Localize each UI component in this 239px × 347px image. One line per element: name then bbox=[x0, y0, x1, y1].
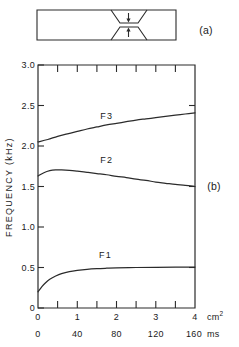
constriction-arrow-up-icon bbox=[126, 27, 130, 37]
y-axis-ticks bbox=[38, 65, 44, 308]
x-tick-label-4: 4 bbox=[192, 312, 197, 322]
series-label-f1: F1 bbox=[99, 250, 112, 260]
y-axis-title: FREQUENCY (kHz) bbox=[4, 137, 14, 237]
x2-tick-label-160: 160 bbox=[186, 329, 202, 339]
x-axis-unit-ms: ms bbox=[207, 329, 220, 339]
x-axis-unit-cm2-text: cm bbox=[207, 312, 220, 322]
y-tick-labels: 0 0.5 1.0 1.5 2.0 2.5 3.0 bbox=[22, 60, 35, 313]
x2-tick-label-0: 0 bbox=[35, 329, 40, 339]
curve-f3 bbox=[38, 113, 195, 142]
plot-frame bbox=[38, 65, 195, 308]
panel-b-label: (b) bbox=[207, 180, 221, 192]
x-tick-label-1: 1 bbox=[75, 312, 80, 322]
y-tick-label-3-0: 3.0 bbox=[22, 60, 35, 70]
constriction-arrow-down-icon bbox=[126, 13, 130, 23]
x-tick-labels-ms: 0 40 80 120 160 bbox=[35, 329, 202, 339]
x-tick-label-0: 0 bbox=[35, 312, 40, 322]
x2-tick-label-120: 120 bbox=[148, 329, 164, 339]
top-axis-ticks bbox=[58, 65, 176, 72]
curve-f1 bbox=[38, 267, 195, 292]
x-tick-label-3: 3 bbox=[153, 312, 158, 322]
x-tick-label-2: 2 bbox=[114, 312, 119, 322]
series-label-f2: F2 bbox=[100, 155, 113, 165]
x2-tick-label-40: 40 bbox=[72, 329, 83, 339]
series-label-f3: F3 bbox=[100, 111, 113, 121]
x-axis-ticks bbox=[58, 301, 176, 308]
y-tick-label-1-0: 1.0 bbox=[22, 222, 35, 232]
y-tick-label-0: 0 bbox=[30, 303, 35, 313]
formant-chart: 0 0.5 1.0 1.5 2.0 2.5 3.0 FREQUENCY (kHz… bbox=[4, 60, 224, 339]
y-tick-label-2-5: 2.5 bbox=[22, 101, 35, 111]
x-axis-unit-cm2: cm2 bbox=[207, 310, 224, 322]
y-tick-label-2-0: 2.0 bbox=[22, 141, 35, 151]
y-tick-label-0-5: 0.5 bbox=[22, 263, 35, 273]
x-tick-labels-cm2: 0 1 2 3 4 bbox=[35, 312, 197, 322]
y-tick-label-1-5: 1.5 bbox=[22, 182, 35, 192]
figure-container: (a) 0 0.5 bbox=[0, 0, 239, 347]
figure-svg: (a) 0 0.5 bbox=[0, 0, 239, 347]
tube-diagram bbox=[37, 10, 176, 40]
curve-f2 bbox=[38, 170, 195, 187]
panel-a-label: (a) bbox=[199, 24, 213, 36]
tube-outline bbox=[37, 10, 176, 40]
x2-tick-label-80: 80 bbox=[111, 329, 122, 339]
